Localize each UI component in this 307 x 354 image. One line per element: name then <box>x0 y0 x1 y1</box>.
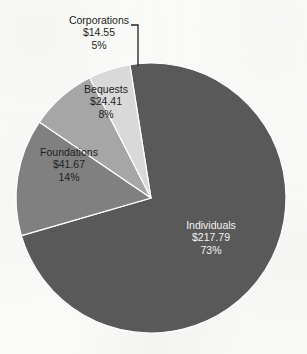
slice-label-bequests-value: $24.41 <box>70 95 142 107</box>
slice-label-bequests-name: Bequests <box>70 83 142 95</box>
slice-label-individuals: Individuals $217.79 73% <box>166 219 256 256</box>
slice-label-individuals-percent: 73% <box>166 244 256 256</box>
slice-label-foundations-name: Foundations <box>24 146 114 158</box>
pie-chart-figure: Corporations $14.55 5% Bequests $24.41 8… <box>0 0 307 354</box>
slice-label-corporations-percent: 5% <box>58 39 140 51</box>
slice-label-foundations: Foundations $41.67 14% <box>24 146 114 183</box>
slice-label-individuals-name: Individuals <box>166 219 256 231</box>
slice-label-bequests-percent: 8% <box>70 108 142 120</box>
slice-label-corporations-name: Corporations <box>58 14 140 26</box>
pie-slices <box>16 63 286 333</box>
slice-label-corporations-value: $14.55 <box>58 26 140 38</box>
slice-label-foundations-percent: 14% <box>24 171 114 183</box>
slice-label-corporations: Corporations $14.55 5% <box>58 14 140 51</box>
slice-label-individuals-value: $217.79 <box>166 231 256 243</box>
slice-label-bequests: Bequests $24.41 8% <box>70 83 142 120</box>
slice-label-foundations-value: $41.67 <box>24 158 114 170</box>
